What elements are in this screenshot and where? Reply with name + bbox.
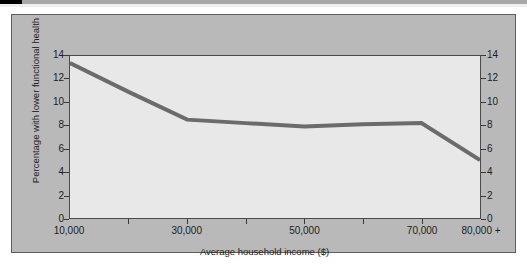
y-axis-right-tick-mark bbox=[481, 196, 486, 197]
y-axis-left-tick-mark bbox=[64, 55, 69, 56]
y-axis-right-tick-mark bbox=[481, 78, 486, 79]
x-axis-minor-tick-mark bbox=[363, 219, 364, 224]
x-axis-tick-label: 70,000 bbox=[407, 225, 438, 236]
y-axis-right-tick-label: 14 bbox=[487, 50, 498, 60]
chart-figure-panel: 02468101214 02468101214 10,00030,00050,0… bbox=[11, 14, 516, 253]
x-axis-tick-label: 30,000 bbox=[171, 225, 202, 236]
y-axis-right-tick-labels: 02468101214 bbox=[487, 55, 511, 219]
x-axis-major-tick-mark bbox=[304, 219, 305, 224]
y-axis-left-tick-mark bbox=[64, 125, 69, 126]
y-axis-left-tick-mark bbox=[64, 172, 69, 173]
y-axis-right-tick-label: 6 bbox=[487, 144, 493, 154]
y-axis-right-tick-mark bbox=[481, 149, 486, 150]
y-axis-right-tick-label: 10 bbox=[487, 97, 498, 107]
y-axis-right-tick-label: 0 bbox=[487, 214, 493, 224]
data-series-line bbox=[70, 63, 480, 160]
y-axis-right-tick-mark bbox=[481, 55, 486, 56]
x-axis-tick-label: 10,000 bbox=[54, 225, 85, 236]
y-axis-right-tick-label: 8 bbox=[487, 120, 493, 130]
y-axis-left-tick-labels: 02468101214 bbox=[42, 55, 64, 219]
x-axis-title: Average household income ($) bbox=[12, 246, 517, 257]
y-axis-left-tick-label: 12 bbox=[53, 73, 64, 83]
x-axis-minor-tick-mark bbox=[246, 219, 247, 224]
x-axis-minor-tick-mark bbox=[128, 219, 129, 224]
y-axis-left-tick-label: 10 bbox=[53, 97, 64, 107]
x-axis-major-tick-mark bbox=[422, 219, 423, 224]
x-axis-tick-label: 80,000 + bbox=[461, 225, 500, 236]
plot-area bbox=[69, 55, 481, 219]
y-axis-right-tick-mark bbox=[481, 172, 486, 173]
y-axis-left-tick-mark bbox=[64, 102, 69, 103]
y-axis-right-tick-label: 4 bbox=[487, 167, 493, 177]
y-axis-right-tick-label: 2 bbox=[487, 191, 493, 201]
scan-edge-strip-light bbox=[0, 4, 527, 7]
x-axis-major-tick-mark bbox=[187, 219, 188, 224]
line-chart-svg bbox=[70, 56, 480, 218]
y-axis-left-tick-mark bbox=[64, 196, 69, 197]
y-axis-right-tick-mark bbox=[481, 219, 486, 220]
y-axis-right-tick-label: 12 bbox=[487, 73, 498, 83]
y-axis-right-tick-mark bbox=[481, 125, 486, 126]
x-axis-tick-label: 50,000 bbox=[289, 225, 320, 236]
y-axis-left-tick-label: 14 bbox=[53, 50, 64, 60]
y-axis-left-tick-mark bbox=[64, 78, 69, 79]
y-axis-title: Percentage with lower functional health bbox=[30, 16, 41, 186]
y-axis-left-tick-mark bbox=[64, 219, 69, 220]
y-axis-right-tick-mark bbox=[481, 102, 486, 103]
y-axis-left-tick-mark bbox=[64, 149, 69, 150]
